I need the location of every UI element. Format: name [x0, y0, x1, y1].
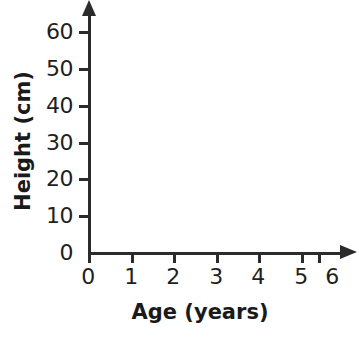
plot-area [91, 14, 341, 252]
y-axis-title: Height (cm) [11, 36, 35, 246]
x-axis-tick-label: 2 [158, 264, 188, 289]
y-axis-tick [79, 142, 89, 145]
x-axis-tick-label: 3 [201, 264, 231, 289]
x-axis-title: Age (years) [60, 300, 340, 324]
y-axis-tick [79, 178, 89, 181]
x-axis-tick-label: 4 [243, 264, 273, 289]
x-axis-tick [318, 254, 321, 263]
y-axis-line [88, 12, 91, 262]
x-axis-tick [216, 254, 219, 263]
x-axis-tick-label: 0 [73, 264, 103, 289]
x-axis-tick-label: 1 [116, 264, 146, 289]
y-axis-tick [79, 105, 89, 108]
x-axis-tick [173, 254, 176, 263]
arrow-right-icon [340, 245, 357, 259]
x-axis-tick-label: 6 [317, 264, 347, 289]
x-axis-tick-label: 5 [286, 264, 316, 289]
x-axis-tick [258, 254, 261, 263]
x-axis-tick [88, 254, 91, 263]
arrow-up-icon [82, 0, 96, 16]
x-axis-tick [301, 254, 304, 263]
x-axis-tick [131, 254, 134, 263]
y-axis-tick [79, 215, 89, 218]
y-axis-tick [79, 68, 89, 71]
y-axis-tick [79, 31, 89, 34]
chart-canvas: 60 50 40 30 20 10 0 0 1 2 3 4 5 6 Age (y… [0, 0, 359, 344]
